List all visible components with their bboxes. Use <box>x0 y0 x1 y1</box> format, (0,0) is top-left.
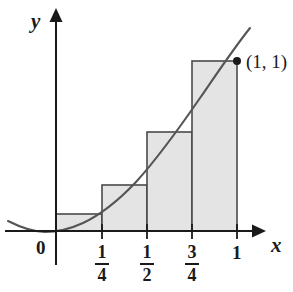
x-tick-label-one: 1 <box>232 243 242 262</box>
fraction-denominator: 2 <box>143 266 152 285</box>
riemann-rectangles <box>56 61 237 231</box>
riemann-sum-figure: y x 0 1 4 1 2 3 4 1 (1, 1) <box>0 0 293 292</box>
fraction-numerator: 3 <box>188 243 197 262</box>
x-tick-label-three-quarters: 3 4 <box>185 243 199 285</box>
point-annotation-1-1: (1, 1) <box>246 52 287 71</box>
origin-label: 0 <box>36 238 46 257</box>
fraction-denominator: 4 <box>188 266 197 285</box>
riemann-rect-3 <box>147 132 192 231</box>
x-tick-label-one-quarter: 1 4 <box>95 243 109 285</box>
fraction-numerator: 1 <box>98 243 107 262</box>
x-tick-label-one-half: 1 2 <box>140 243 154 285</box>
fraction-denominator: 4 <box>98 266 107 285</box>
fraction-numerator: 1 <box>143 243 152 262</box>
point-marker-1-1 <box>233 57 241 65</box>
y-axis-label: y <box>31 11 40 32</box>
x-axis-label: x <box>271 235 282 256</box>
riemann-rect-4 <box>192 61 237 231</box>
